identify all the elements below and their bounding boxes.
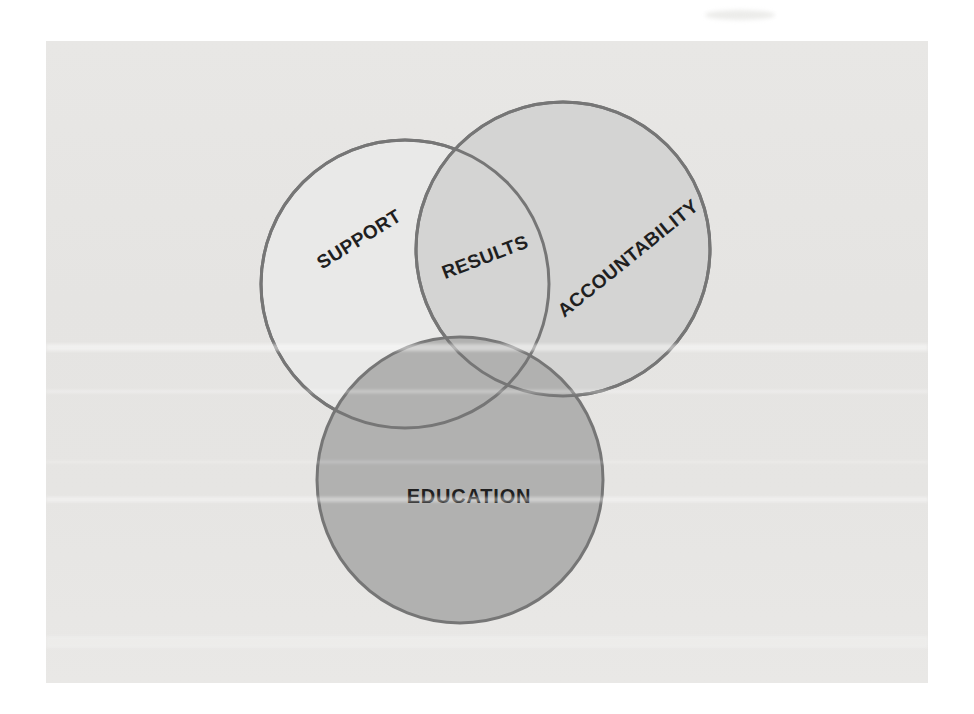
education-circle	[317, 337, 603, 623]
scan-smudge	[705, 10, 775, 20]
page: SUPPORT RESULTS ACCOUNTABILITY EDUCATION	[0, 0, 974, 714]
diagram-canvas: SUPPORT RESULTS ACCOUNTABILITY EDUCATION	[46, 41, 928, 683]
venn-diagram: SUPPORT RESULTS ACCOUNTABILITY EDUCATION	[46, 41, 928, 683]
education-label: EDUCATION	[407, 485, 532, 507]
